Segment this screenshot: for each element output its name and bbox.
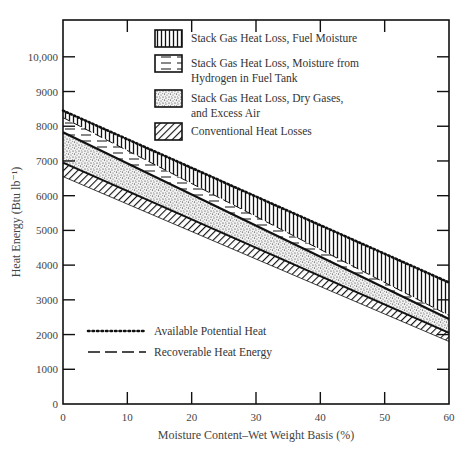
y-tick-label: 7000	[36, 155, 59, 167]
line-legend-label: Available Potential Heat	[154, 325, 267, 337]
y-tick-label: 3000	[36, 294, 59, 306]
y-tick-label: 4000	[36, 259, 59, 271]
legend-item: Stack Gas Heat Loss, Moisture fromHydrog…	[155, 55, 359, 85]
x-tick-label: 50	[379, 411, 391, 423]
legend-swatch-vertical-lines	[155, 30, 182, 47]
line-legend-label: Recoverable Heat Energy	[154, 346, 272, 359]
legend-swatch-stipple	[155, 90, 182, 107]
y-tick-label: 9000	[36, 86, 59, 98]
x-tick-label: 60	[444, 411, 456, 423]
legend-label: Hydrogen in Fuel Tank	[191, 72, 298, 85]
legend-label: Stack Gas Heat Loss, Fuel Moisture	[191, 32, 357, 45]
y-tick-label: 2000	[36, 329, 59, 341]
x-tick-label: 0	[60, 411, 66, 423]
y-tick-label: 1000	[36, 363, 59, 375]
legend-swatch-diagonal-hatch	[155, 123, 182, 140]
legend-item: Stack Gas Heat Loss, Fuel Moisture	[155, 30, 357, 47]
x-tick-label: 40	[315, 411, 327, 423]
y-tick-label: 5000	[36, 224, 59, 236]
band-diagonal-hatch	[63, 163, 449, 342]
legend-label: Conventional Heat Losses	[191, 125, 312, 137]
dry-gases-lower-line	[63, 163, 449, 333]
x-tick-label: 20	[186, 411, 198, 423]
y-axis-title: Heat Energy (Btu lb⁻¹)	[9, 167, 23, 278]
recoverable-heat-energy-line	[63, 132, 449, 319]
band-vertical-lines	[63, 111, 449, 316]
x-tick-label: 30	[251, 411, 263, 423]
y-tick-label: 0	[53, 398, 59, 410]
line-legend-item: Recoverable Heat Energy	[88, 346, 272, 359]
legend-swatch-dashes	[155, 55, 182, 72]
heat-energy-chart: 0102030405060010002000300040005000600070…	[0, 0, 467, 449]
x-tick-label: 10	[122, 411, 134, 423]
y-tick-label: 10,000	[28, 51, 59, 63]
y-tick-label: 6000	[36, 190, 59, 202]
y-tick-label: 8000	[36, 120, 59, 132]
legend-label: and Excess Air	[191, 107, 260, 119]
legend-label: Stack Gas Heat Loss, Moisture from	[191, 57, 359, 70]
line-legend-item: Available Potential Heat	[88, 325, 267, 337]
legend-label: Stack Gas Heat Loss, Dry Gases,	[191, 92, 343, 105]
legend-item: Conventional Heat Losses	[155, 123, 312, 140]
x-axis-title: Moisture Content–Wet Weight Basis (%)	[158, 428, 355, 442]
band-stipple	[63, 132, 449, 333]
legend-item: Stack Gas Heat Loss, Dry Gases,and Exces…	[155, 90, 343, 119]
